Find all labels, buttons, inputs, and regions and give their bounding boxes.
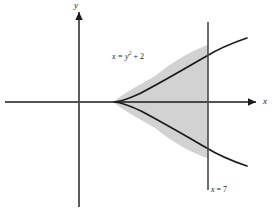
plot-canvas [0,0,277,212]
figure-container: y x x = y2 + 2 x = 7 [0,0,277,212]
curve-label-prefix: x = y [112,52,129,61]
curve-equation-label: x = y2 + 2 [112,51,144,61]
x-axis-arrowhead [248,98,256,106]
curve-label-suffix: + 2 [131,52,144,61]
vertical-line-label: x = 7 [211,186,227,194]
y-axis-label: y [74,1,78,10]
x-axis-label: x [263,97,267,106]
vline-label-suffix: = 7 [215,185,228,194]
y-axis-arrowhead [75,12,82,20]
